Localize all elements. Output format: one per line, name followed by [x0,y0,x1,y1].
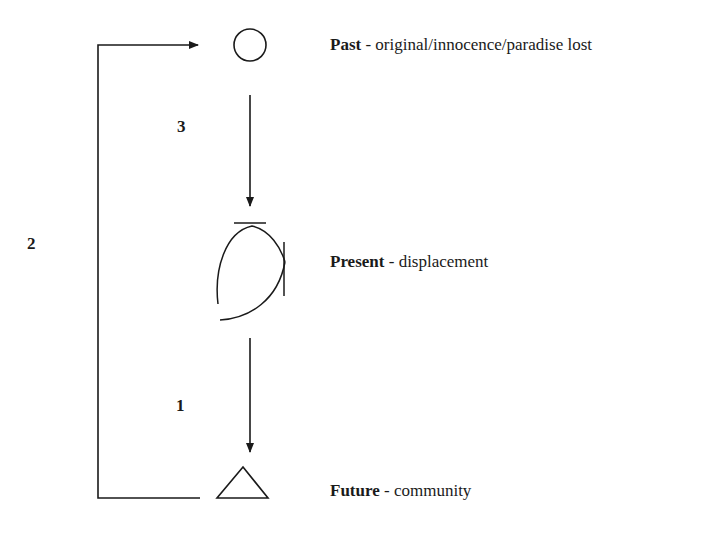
present-title: Present [330,252,384,271]
past-label: Past - original/innocence/paradise lost [330,35,592,55]
present-label: Present - displacement [330,252,488,272]
past-separator: - [361,35,375,54]
present-separator: - [384,252,398,271]
edge-future-to-past [98,45,200,498]
past-description: original/innocence/paradise lost [375,35,592,54]
future-title: Future [330,481,380,500]
future-description: community [394,481,471,500]
future-triangle-icon [217,467,268,498]
present-description: displacement [399,252,489,271]
past-title: Past [330,35,361,54]
edge-label-1: 1 [176,396,185,416]
edge-label-3: 3 [177,117,186,137]
future-separator: - [380,481,394,500]
past-circle-icon [234,29,266,61]
present-crossed-curve-icon [217,223,285,320]
edge-label-2: 2 [27,234,36,254]
future-label: Future - community [330,481,471,501]
